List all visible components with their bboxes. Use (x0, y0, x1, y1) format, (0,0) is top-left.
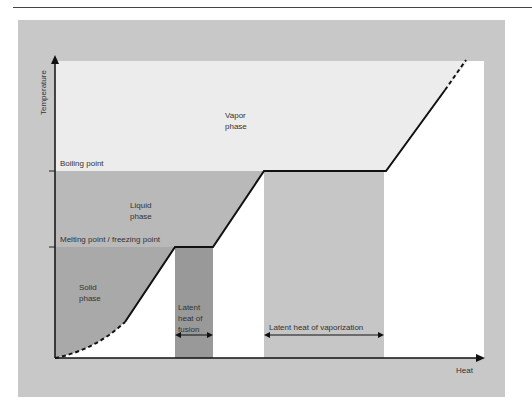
y-axis-label: Temperature (39, 70, 48, 115)
vapor-label-1: Vapor (225, 111, 246, 120)
fusion-label-3: fusion (178, 325, 199, 334)
solid-label-2: phase (79, 294, 101, 303)
vapor-label-2: phase (225, 122, 247, 131)
heating-curve-diagram: Temperature Heat Boiling point Melting p… (0, 0, 532, 409)
melting-point-label: Melting point / freezing point (60, 235, 161, 244)
vaporization-label: Latent heat of vaporization (269, 323, 363, 332)
liquid-label-1: Liquid (130, 201, 151, 210)
liquid-label-2: phase (130, 212, 152, 221)
fusion-label-1: Latent (178, 303, 201, 312)
boiling-point-label: Boiling point (60, 159, 104, 168)
x-axis-label: Heat (456, 366, 474, 375)
solid-label-1: Solid (79, 283, 97, 292)
fusion-label-2: heat of (178, 314, 203, 323)
